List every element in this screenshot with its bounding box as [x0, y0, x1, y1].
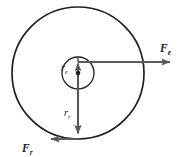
radius-rotation-label: rr — [64, 107, 71, 120]
diagram-canvas: re rr Fe Fr — [0, 0, 191, 157]
center-point — [76, 71, 81, 76]
physics-diagram-figure: re rr Fe Fr — [0, 0, 191, 157]
radius-electron-label: re — [61, 62, 68, 75]
force-electron-label: Fe — [159, 42, 172, 57]
force-rotation-label: Fr — [21, 142, 33, 157]
